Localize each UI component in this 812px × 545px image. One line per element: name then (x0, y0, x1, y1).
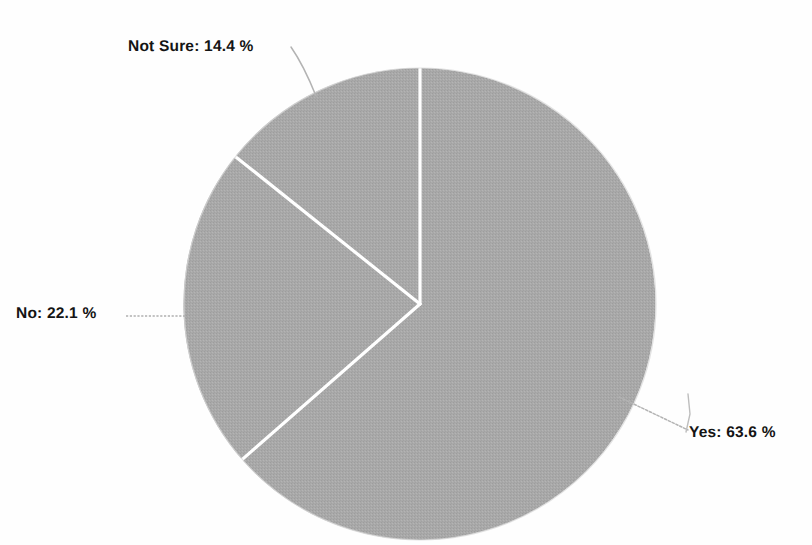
pie-label-not-sure: Not Sure: 14.4 % (128, 38, 254, 56)
pie-label-no: No: 22.1 % (16, 305, 96, 323)
pie-label-yes: Yes: 63.6 % (689, 424, 776, 442)
leader-line-not-sure (291, 47, 316, 96)
pie-chart-page: Not Sure: 14.4 % No: 22.1 % Yes: 63.6 % (0, 0, 812, 545)
pie-chart-figure (0, 0, 812, 545)
